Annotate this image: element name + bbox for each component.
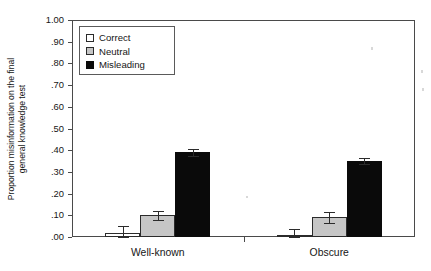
scan-speckle <box>422 88 424 91</box>
error-bar-cap-lower <box>359 164 370 165</box>
error-bar-cap-upper <box>359 158 370 159</box>
y-axis-title-line-1: Proportion misinformation on the final <box>6 58 17 200</box>
legend: Correct Neutral Misleading <box>79 26 175 75</box>
bar-obscure-misleading <box>347 161 382 237</box>
error-bar-cap-lower <box>153 220 164 221</box>
scan-speckle <box>371 47 373 50</box>
legend-item-misleading: Misleading <box>86 58 169 72</box>
legend-swatch-misleading-icon <box>86 61 94 69</box>
y-axis-tick-label: .60 <box>30 101 64 112</box>
legend-swatch-neutral-icon <box>86 47 94 55</box>
error-bar-stem <box>158 211 159 220</box>
x-axis-tick-mark <box>244 237 245 242</box>
legend-label-correct: Correct <box>99 32 130 43</box>
x-axis-label-obscure: Obscure <box>269 247 389 258</box>
legend-item-neutral: Neutral <box>86 45 169 59</box>
legend-item-correct: Correct <box>86 31 169 45</box>
error-bar-cap-upper <box>324 212 335 213</box>
y-axis-tick-label: .70 <box>30 79 64 90</box>
legend-label-neutral: Neutral <box>99 46 130 57</box>
y-axis-tick-label: .20 <box>30 188 64 199</box>
y-axis-tick-label: .80 <box>30 57 64 68</box>
error-bar-cap-upper <box>188 149 199 150</box>
y-axis-tick-label: .90 <box>30 36 64 47</box>
x-axis-label-well-known: Well-known <box>98 247 218 258</box>
error-bar-cap-upper <box>289 229 300 230</box>
y-axis-tick-label: .00 <box>30 231 64 242</box>
error-bar-cap-lower <box>324 223 335 224</box>
chart-figure: Proportion misinformation on the final g… <box>0 0 431 271</box>
y-axis-tick-label: .50 <box>30 123 64 134</box>
error-bar-cap-upper <box>118 226 129 227</box>
scan-speckle <box>421 70 423 73</box>
y-axis-tick-mark <box>68 237 72 238</box>
legend-swatch-correct-icon <box>86 34 94 42</box>
legend-label-misleading: Misleading <box>99 59 145 70</box>
y-axis-tick-label: .40 <box>30 144 64 155</box>
error-bar-cap-lower <box>289 237 300 238</box>
error-bar-stem <box>193 149 194 156</box>
error-bar-stem <box>329 212 330 223</box>
y-axis-title-line-2: general knowledge test <box>17 58 28 200</box>
y-axis-tick-label: .10 <box>30 209 64 220</box>
error-bar-stem <box>123 226 124 237</box>
error-bar-cap-lower <box>188 156 199 157</box>
bar-well-known-misleading <box>175 152 210 237</box>
y-axis-tick-label: 1.00 <box>30 14 64 25</box>
y-axis-tick-label: .30 <box>30 166 64 177</box>
scan-speckle <box>246 196 248 198</box>
error-bar-stem <box>294 229 295 237</box>
y-axis-title: Proportion misinformation on the final g… <box>2 18 32 240</box>
error-bar-cap-lower <box>118 237 129 238</box>
error-bar-cap-upper <box>153 211 164 212</box>
